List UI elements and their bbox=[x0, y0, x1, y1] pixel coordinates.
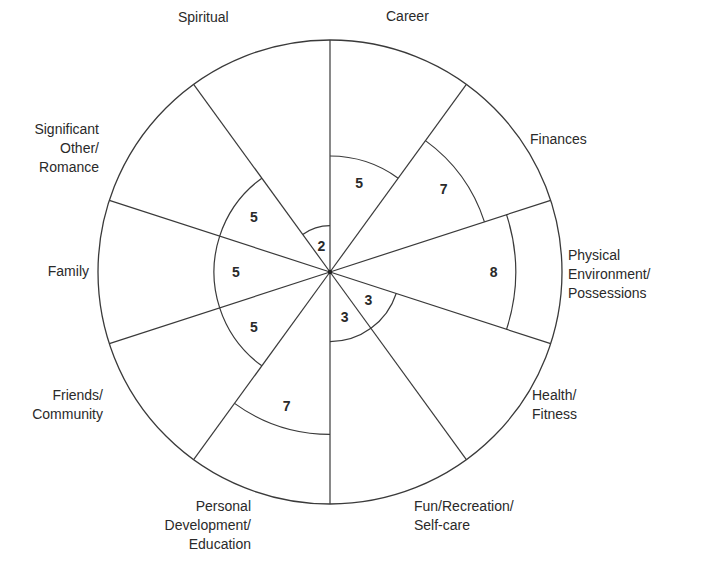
score-arc bbox=[220, 178, 262, 236]
score-value: 5 bbox=[250, 319, 258, 335]
label-physical-environment: Physical Environment/ Possessions bbox=[568, 246, 650, 303]
score-arc bbox=[330, 328, 371, 341]
score-arcs bbox=[214, 141, 516, 435]
spoke-line bbox=[330, 200, 551, 272]
score-value: 5 bbox=[355, 175, 363, 191]
label-finances: Finances bbox=[530, 130, 587, 149]
label-personal-development: Personal Development/ Education bbox=[165, 497, 251, 554]
score-value: 3 bbox=[365, 292, 373, 308]
score-value: 5 bbox=[232, 264, 240, 280]
score-value: 8 bbox=[490, 264, 498, 280]
score-value: 3 bbox=[341, 309, 349, 325]
label-family: Family bbox=[48, 262, 89, 281]
label-significant-other: Significant Other/ Romance bbox=[34, 120, 99, 177]
score-value: 7 bbox=[283, 398, 291, 414]
score-value: 2 bbox=[317, 238, 325, 254]
label-friends-community: Friends/ Community bbox=[32, 386, 103, 424]
spoke-line bbox=[330, 272, 466, 460]
label-fun-recreation: Fun/Recreation/ Self-care bbox=[414, 497, 514, 535]
score-values: 5783375552 bbox=[232, 175, 498, 414]
label-health-fitness: Health/ Fitness bbox=[532, 386, 577, 424]
score-arc bbox=[214, 236, 220, 308]
score-arc bbox=[303, 226, 330, 235]
spoke-line bbox=[330, 84, 466, 272]
score-arc bbox=[330, 156, 398, 178]
label-spiritual: Spiritual bbox=[178, 8, 229, 27]
center-hub bbox=[328, 270, 332, 274]
label-career: Career bbox=[386, 7, 429, 26]
score-value: 7 bbox=[440, 181, 448, 197]
score-arc bbox=[425, 141, 484, 222]
score-arc bbox=[220, 308, 262, 366]
score-arc bbox=[507, 215, 516, 330]
score-value: 5 bbox=[250, 209, 258, 225]
score-arc bbox=[371, 294, 396, 329]
